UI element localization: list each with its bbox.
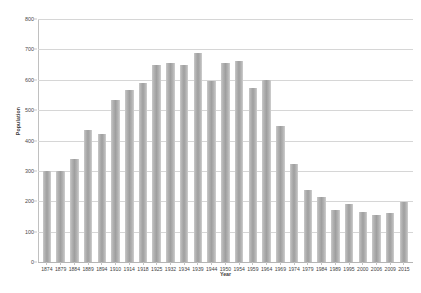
x-tick-mark-1894 [101,262,102,265]
y-tick-label-100: 100 [25,229,34,235]
bar-slot [315,19,329,262]
x-axis-title: Year [38,271,413,277]
bar-1879 [56,171,65,262]
bar-2015 [400,202,409,262]
y-tick-mark-300 [34,170,37,171]
x-tick-mark-1944 [211,262,212,265]
bar-slot [122,19,136,262]
bar-1939 [194,53,203,262]
x-tick-mark-1879 [60,262,61,265]
x-tick-mark-1910 [115,262,116,265]
x-tick-mark-1995 [349,262,350,265]
bar-2000 [359,212,368,262]
bar-slot [342,19,356,262]
x-tick-mark-1925 [156,262,157,265]
bar-slot [177,19,191,262]
y-tick-mark-100 [34,231,37,232]
x-tick-mark-1889 [88,262,89,265]
y-tick-label-600: 600 [25,77,34,83]
bar-1969 [276,126,285,262]
y-tick-mark-600 [34,79,37,80]
bar-slot [191,19,205,262]
bar-slot [287,19,301,262]
bar-slot [95,19,109,262]
bar-1950 [221,63,230,262]
y-tick-label-400: 400 [25,138,34,144]
x-tick-mark-1932 [170,262,171,265]
x-tick-mark-1964 [266,262,267,265]
bar-slot [397,19,411,262]
bar-1944 [207,81,216,262]
bar-slot [67,19,81,262]
bar-1995 [345,204,354,262]
bar-slot [136,19,150,262]
bar-1979 [304,190,313,262]
plot-area [38,19,413,262]
x-tick-mark-2000 [362,262,363,265]
bar-slot [356,19,370,262]
bar-2009 [386,213,395,263]
bar-slot [383,19,397,262]
bar-1934 [180,65,189,262]
bar-1989 [331,210,340,262]
x-tick-mark-2006 [376,262,377,265]
x-tick-mark-1969 [280,262,281,265]
bar-1984 [317,197,326,262]
x-tick-mark-2009 [390,262,391,265]
y-tick-mark-700 [34,49,37,50]
bar-slot [328,19,342,262]
x-tick-mark-1874 [46,262,47,265]
x-tick-mark-1914 [129,262,130,265]
x-tick-mark-1918 [143,262,144,265]
bar-2006 [372,215,381,262]
bar-slot [370,19,384,262]
x-tick-mark-1959 [252,262,253,265]
bar-slot [54,19,68,262]
y-tick-label-500: 500 [25,107,34,113]
y-tick-label-300: 300 [25,168,34,174]
bar-slot [81,19,95,262]
bar-1894 [98,134,107,262]
y-tick-mark-500 [34,110,37,111]
y-axis-tick-labels: 0100200300400500600700800 [0,0,38,275]
bar-slot [260,19,274,262]
bar-1932 [166,63,175,262]
chart-plot-wrapper: Population 0100200300400500600700800 187… [0,0,421,275]
bar-1954 [235,61,244,262]
x-tick-mark-1950 [225,262,226,265]
y-tick-mark-0 [34,262,37,263]
y-tick-label-800: 800 [25,16,34,22]
bar-1925 [152,65,161,262]
bar-1884 [70,159,79,262]
bar-1914 [125,90,134,262]
x-tick-mark-1884 [74,262,75,265]
x-tick-mark-1954 [239,262,240,265]
bar-slot [164,19,178,262]
y-tick-label-200: 200 [25,198,34,204]
y-tick-mark-800 [34,19,37,20]
bar-1964 [262,80,271,262]
bar-1974 [290,164,299,262]
bar-series [38,19,413,262]
x-tick-mark-2015 [403,262,404,265]
x-tick-mark-1934 [184,262,185,265]
x-tick-mark-1939 [197,262,198,265]
bar-1918 [139,83,148,262]
x-tick-mark-1989 [335,262,336,265]
bar-1874 [43,171,52,262]
bar-slot [273,19,287,262]
bar-slot [246,19,260,262]
bar-1889 [84,130,93,262]
bar-slot [109,19,123,262]
y-tick-label-700: 700 [25,46,34,52]
bar-slot [232,19,246,262]
population-bar-chart-figure: Population 0100200300400500600700800 187… [0,0,421,293]
bar-slot [301,19,315,262]
x-tick-mark-1984 [321,262,322,265]
y-tick-mark-200 [34,201,37,202]
x-tick-mark-1974 [294,262,295,265]
y-tick-mark-400 [34,140,37,141]
bar-slot [205,19,219,262]
bar-slot [219,19,233,262]
bar-slot [40,19,54,262]
